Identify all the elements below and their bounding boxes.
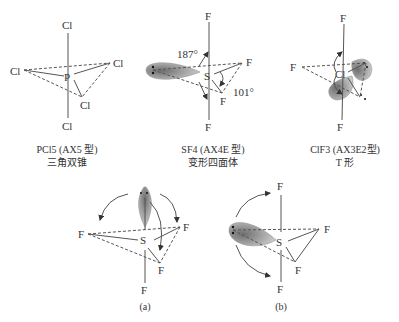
caption-a: (a): [120, 300, 170, 313]
svg-text:F: F: [220, 95, 226, 107]
sf4-structure: [146, 22, 242, 120]
structure-a-labels: F S F F F: [78, 221, 189, 296]
clf3-labels: F F Cl F: [290, 12, 346, 133]
pcl5-labels: Cl Cl P Cl Cl Cl: [10, 19, 123, 132]
svg-text:P: P: [64, 71, 70, 83]
svg-text:S: S: [140, 234, 146, 246]
svg-text:101°: 101°: [233, 86, 254, 98]
clf3-shape: T 形: [300, 156, 390, 169]
structure-a: [88, 187, 180, 283]
svg-text:Cl: Cl: [62, 120, 72, 132]
pcl5-formula: PCl5 (AX5 型): [22, 143, 112, 156]
sf4-caption: SF4 (AX4E 型) 变形四面体: [168, 143, 258, 169]
svg-text:F: F: [78, 228, 84, 240]
clf3-formula: ClF3 (AX3E2型): [300, 143, 390, 156]
caption-b: (b): [256, 300, 306, 313]
svg-text:F: F: [277, 180, 283, 192]
svg-text:F: F: [246, 56, 252, 68]
svg-text:Cl: Cl: [80, 99, 90, 111]
sf4-formula: SF4 (AX4E 型): [168, 143, 258, 156]
pcl5-caption: PCl5 (AX5 型) 三角双锥: [22, 143, 112, 169]
structure-b-labels: F S F F F: [276, 180, 330, 295]
clf3-caption: ClF3 (AX3E2型) T 形: [300, 143, 390, 169]
svg-text:F: F: [205, 10, 211, 22]
svg-text:S: S: [204, 70, 210, 82]
svg-text:F: F: [290, 61, 296, 73]
structure-b: [229, 193, 319, 282]
svg-text:F: F: [295, 264, 301, 276]
svg-text:F: F: [141, 284, 147, 296]
svg-text:F: F: [158, 264, 164, 276]
svg-text:F: F: [340, 12, 346, 24]
svg-text:187°: 187°: [177, 48, 198, 60]
pcl5-shape: 三角双锥: [22, 156, 112, 169]
svg-text:Cl: Cl: [10, 65, 20, 77]
svg-text:F: F: [183, 221, 189, 233]
svg-text:Cl: Cl: [335, 68, 345, 80]
svg-text:F: F: [277, 283, 283, 295]
sf4-shape: 变形四面体: [168, 156, 258, 169]
svg-text:F: F: [205, 121, 211, 133]
svg-text:F: F: [337, 121, 343, 133]
svg-text:Cl: Cl: [113, 57, 123, 69]
svg-text:S: S: [276, 236, 282, 248]
svg-text:F: F: [324, 223, 330, 235]
svg-text:Cl: Cl: [62, 19, 72, 31]
